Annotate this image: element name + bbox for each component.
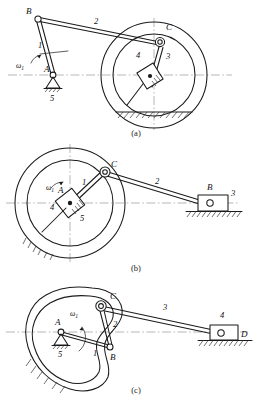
label-omega-c: ω1: [70, 309, 78, 319]
slider-pivot-a: [148, 74, 152, 78]
label-link-1-a: 1: [38, 40, 42, 50]
label-point-b-a: B: [26, 6, 32, 16]
pin-joint-b-b: [207, 200, 213, 206]
pin-joint-b-a: [35, 16, 41, 22]
link-3-edge1-c: [106, 307, 218, 331]
ring-ground-hatching-b: [23, 238, 53, 260]
label-link-5-a: 5: [50, 93, 54, 103]
label-point-b-b: B: [207, 182, 213, 192]
pin-joint-c-inner-b: [103, 170, 108, 175]
omega-arrowhead-a: [37, 55, 41, 59]
figure-sheet: B A C 1 2 3 4 5 ω1 (a): [0, 0, 272, 418]
label-link-4-b: 4: [50, 202, 55, 212]
label-link-1-b: 1: [82, 177, 86, 187]
label-link-2-c: 2: [113, 319, 118, 329]
label-link-5-c: 5: [58, 349, 62, 359]
label-link-3-b: 3: [230, 188, 235, 198]
ground-pivot-triangle-a: [46, 77, 60, 88]
pin-joint-c-inner-c: [99, 304, 104, 309]
figure-a: B A C 1 2 3 4 5 ω1 (a): [0, 0, 272, 140]
label-link-3-c: 3: [162, 302, 167, 312]
label-link-1-c: 1: [93, 348, 97, 358]
label-point-c-b: C: [111, 159, 118, 169]
label-point-d-c: D: [240, 329, 248, 339]
slider-pivot-b: [68, 201, 72, 205]
label-point-a-c: A: [54, 317, 61, 327]
label-link-3-a: 3: [165, 51, 170, 61]
label-link-2-a: 2: [94, 16, 99, 26]
caption-c: (c): [131, 385, 141, 395]
label-link-4-a: 4: [136, 50, 141, 60]
cam-ground-hatching-c: [26, 359, 65, 393]
caption-a: (a): [131, 128, 141, 138]
label-link-5-b: 5: [80, 213, 84, 223]
pin-joint-d-c: [218, 330, 224, 336]
figure-b: C A B 1 2 3 4 5 ω1 (b): [0, 140, 272, 275]
label-point-c-a: C: [166, 22, 173, 32]
ground-hatching-c: [199, 341, 248, 347]
ground-hatching-a: [118, 112, 189, 118]
pin-joint-c-inner-a: [158, 40, 162, 44]
label-link-2-b: 2: [155, 176, 160, 186]
pin-joint-b-c: [107, 344, 113, 350]
ground-hatching-b: [187, 212, 241, 218]
link-2-upper-edge-a: [37, 17, 160, 42]
label-point-a-a: A: [43, 64, 50, 74]
label-point-b-c: B: [110, 352, 116, 362]
link-1-leader-a: [40, 51, 68, 54]
omega-arc-c: [79, 327, 86, 351]
label-point-c-c: C: [110, 291, 117, 301]
label-link-4-c: 4: [220, 310, 225, 320]
figure-c: A B C D 1 2 3 4 5 ω1 (c): [0, 275, 272, 418]
caption-b: (b): [131, 263, 141, 273]
link-3-edge2-c: [105, 311, 218, 335]
label-point-a-b: A: [57, 185, 64, 195]
label-omega-a: ω1: [16, 61, 24, 71]
label-omega-b: ω1: [46, 183, 54, 193]
